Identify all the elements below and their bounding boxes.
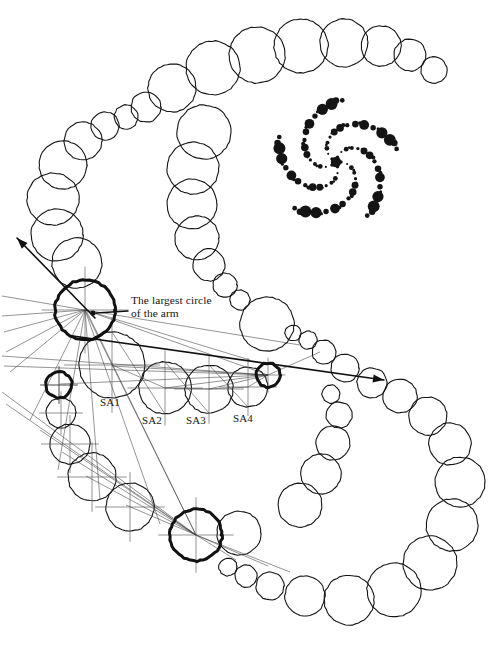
annotation-line-1: The largest circle xyxy=(131,294,212,306)
annotation-leader-line xyxy=(96,311,128,313)
label-sa3: SA3 xyxy=(186,414,206,426)
annotation-largest-circle: The largest circleof the arm xyxy=(131,294,212,320)
outer-circle-chain xyxy=(27,19,485,626)
annotation-line-2: of the arm xyxy=(131,307,179,319)
label-sa2: SA2 xyxy=(142,414,162,426)
label-sa4: SA4 xyxy=(233,412,253,424)
spiral-arm-diagram xyxy=(0,0,497,651)
construction-lines xyxy=(2,296,320,572)
largest-circle-center-dot xyxy=(90,310,95,315)
label-sa1: SA1 xyxy=(100,396,120,408)
figure-canvas: The largest circleof the arm SA1 SA2 SA3… xyxy=(0,0,497,651)
pinwheel-inset xyxy=(273,97,398,218)
